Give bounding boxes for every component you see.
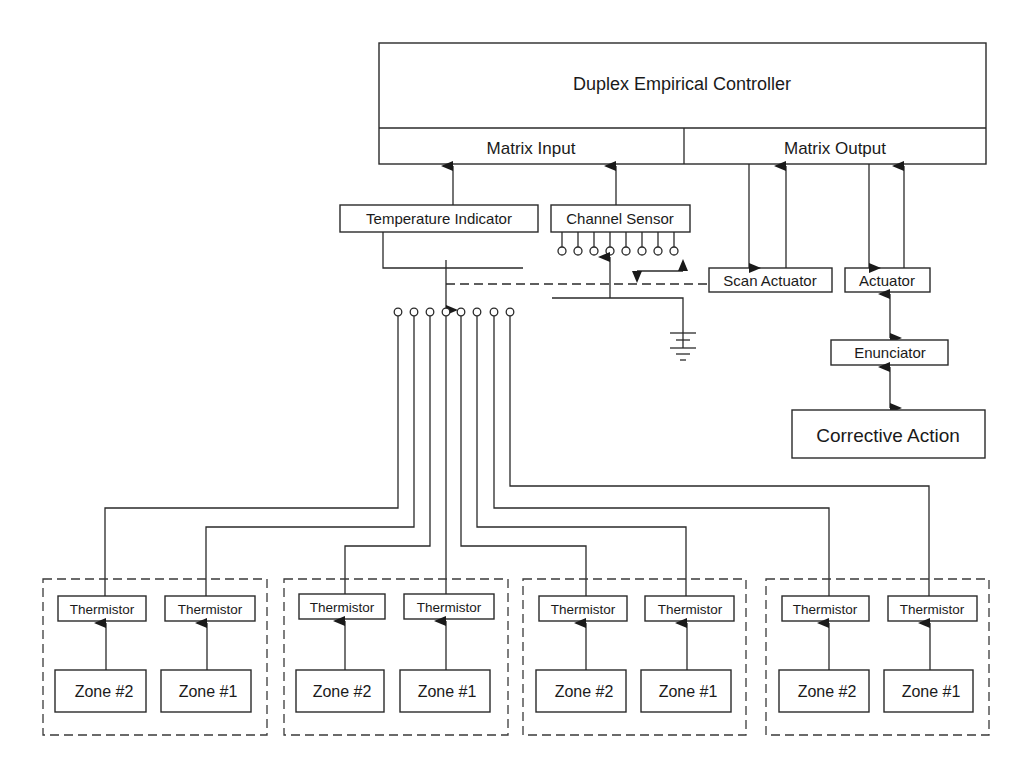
wire-t6 bbox=[477, 316, 686, 596]
wire-t5 bbox=[461, 316, 586, 596]
thermistor-label: Thermistor bbox=[900, 602, 965, 617]
channel-sensor-terminals bbox=[558, 232, 678, 255]
sensor-terminal bbox=[654, 247, 662, 255]
matrix-input-label: Matrix Input bbox=[487, 139, 576, 158]
scanner-terminal-6 bbox=[473, 308, 481, 316]
sensor-terminal bbox=[638, 247, 646, 255]
sensor-terminal bbox=[606, 247, 614, 255]
corrective-action-block: Corrective Action bbox=[792, 410, 985, 458]
thermistor-label: Thermistor bbox=[70, 602, 135, 617]
thermistor-label: Thermistor bbox=[178, 602, 243, 617]
thermistor-label: Thermistor bbox=[551, 602, 616, 617]
zone-label: Zone #2 bbox=[75, 683, 134, 700]
scanner-terminals bbox=[394, 308, 514, 316]
scanner-terminal-5 bbox=[457, 308, 465, 316]
channel-sensor-block: Channel Sensor bbox=[551, 166, 690, 298]
wire-t3 bbox=[345, 316, 430, 596]
matrix-output-label: Matrix Output bbox=[784, 139, 886, 158]
wire-t7 bbox=[494, 316, 829, 596]
duplex-controller-block-diagram: Duplex Empirical Controller Matrix Input… bbox=[0, 0, 1031, 773]
enunciator-block: Enunciator bbox=[831, 340, 948, 408]
ground-circuit bbox=[552, 298, 696, 360]
zone-label: Zone #1 bbox=[418, 683, 477, 700]
actuator-label: Actuator bbox=[859, 272, 915, 289]
scanner-terminal-2 bbox=[410, 308, 418, 316]
wire-t2 bbox=[206, 316, 414, 596]
thermistor-label: Thermistor bbox=[658, 602, 723, 617]
enunciator-label: Enunciator bbox=[854, 344, 926, 361]
sensor-terminal bbox=[670, 247, 678, 255]
scanner-terminal-8 bbox=[506, 308, 514, 316]
scan-actuator-block: Scan Actuator bbox=[709, 164, 832, 292]
thermistor-label: Thermistor bbox=[793, 602, 858, 617]
sensor-terminal bbox=[558, 247, 566, 255]
actuator-block: Actuator bbox=[845, 164, 930, 338]
scanner-terminal-3 bbox=[426, 308, 434, 316]
wire-t1 bbox=[105, 316, 398, 596]
zone-label: Zone #2 bbox=[798, 683, 857, 700]
scanner-terminal-7 bbox=[490, 308, 498, 316]
scanner-terminal-4 bbox=[442, 308, 450, 316]
corrective-action-label: Corrective Action bbox=[816, 425, 960, 446]
sensor-terminal bbox=[622, 247, 630, 255]
zone-label: Zone #1 bbox=[902, 683, 961, 700]
zone-label: Zone #1 bbox=[659, 683, 718, 700]
controller-block: Duplex Empirical Controller Matrix Input… bbox=[379, 43, 986, 164]
temperature-indicator-block: Temperature Indicator bbox=[340, 166, 538, 310]
zone-label: Zone #2 bbox=[555, 683, 614, 700]
zone-group-3: Thermistor Thermistor Zone #2 Zone #1 bbox=[523, 579, 746, 735]
ground-bus bbox=[552, 298, 683, 333]
zone-label: Zone #1 bbox=[179, 683, 238, 700]
sensor-terminal bbox=[590, 247, 598, 255]
zone-label: Zone #2 bbox=[313, 683, 372, 700]
controller-title: Duplex Empirical Controller bbox=[573, 74, 791, 94]
temp-indicator-bus bbox=[383, 232, 523, 268]
thermistor-label: Thermistor bbox=[310, 600, 375, 615]
channel-sensor-label: Channel Sensor bbox=[566, 210, 674, 227]
zone-group-1: Thermistor Thermistor Zone #2 Zone #1 bbox=[43, 579, 267, 735]
sensor-terminal bbox=[574, 247, 582, 255]
controller-outer-box bbox=[379, 43, 986, 164]
zone-group-4: Thermistor Thermistor Zone #2 Zone #1 bbox=[766, 579, 989, 735]
thermistor-label: Thermistor bbox=[417, 600, 482, 615]
ground-symbol-icon bbox=[670, 333, 696, 360]
temperature-indicator-label: Temperature Indicator bbox=[366, 210, 512, 227]
scan-actuator-label: Scan Actuator bbox=[723, 272, 816, 289]
scanner-terminal-1 bbox=[394, 308, 402, 316]
zone-group-2: Thermistor Thermistor Zone #2 Zone #1 bbox=[284, 579, 508, 735]
